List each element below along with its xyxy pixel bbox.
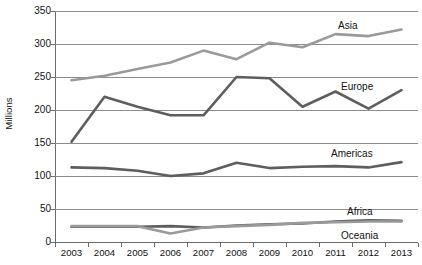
y-tick-350: 350 xyxy=(5,6,51,16)
series-line-asia xyxy=(72,29,402,80)
y-tick-300: 300 xyxy=(5,39,51,49)
y-tick-150: 150 xyxy=(5,138,51,148)
y-tick-50: 50 xyxy=(5,204,51,214)
x-tick-mark-0 xyxy=(55,243,56,247)
y-tick-mark-100 xyxy=(51,176,55,177)
series-label-oceania: Oceania xyxy=(341,230,378,241)
gridline-0 xyxy=(55,242,418,243)
y-tick-200: 200 xyxy=(5,105,51,115)
y-tick-0: 0 xyxy=(5,237,51,247)
y-tick-mark-150 xyxy=(51,143,55,144)
y-tick-mark-300 xyxy=(51,44,55,45)
series-label-asia: Asia xyxy=(338,20,357,31)
y-tick-100: 100 xyxy=(5,171,51,181)
y-axis-tick-labels: 050100150200250300350 xyxy=(0,0,51,265)
x-tick-mark-8 xyxy=(319,243,320,247)
y-tick-mark-50 xyxy=(51,209,55,210)
x-tick-mark-end xyxy=(418,243,419,247)
y-tick-250: 250 xyxy=(5,72,51,82)
x-tick-mark-6 xyxy=(253,243,254,247)
x-tick-mark-9 xyxy=(352,243,353,247)
series-label-americas: Americas xyxy=(331,148,373,159)
x-tick-mark-3 xyxy=(154,243,155,247)
x-tick-mark-5 xyxy=(220,243,221,247)
y-tick-mark-200 xyxy=(51,110,55,111)
x-tick-mark-10 xyxy=(385,243,386,247)
x-tick-mark-7 xyxy=(286,243,287,247)
series-label-africa: Africa xyxy=(347,206,373,217)
y-tick-mark-250 xyxy=(51,77,55,78)
series-line-americas xyxy=(72,162,402,176)
y-tick-mark-350 xyxy=(51,11,55,12)
series-label-europe: Europe xyxy=(341,81,373,92)
x-tick-mark-1 xyxy=(88,243,89,247)
x-tick-2013: 2013 xyxy=(382,247,422,258)
x-tick-mark-4 xyxy=(187,243,188,247)
x-tick-mark-2 xyxy=(121,243,122,247)
